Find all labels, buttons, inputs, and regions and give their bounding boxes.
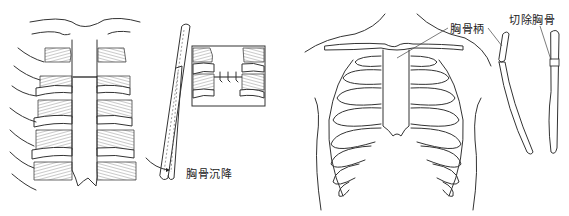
- left-ribs: [329, 56, 381, 196]
- right-ribs: [411, 56, 463, 196]
- left-torso-line: [315, 98, 321, 210]
- clavicles: [325, 43, 463, 50]
- left-rib-stack: [10, 48, 72, 190]
- label-resected-sternum: 切除胸骨: [509, 11, 555, 27]
- ribcage-illustration: [285, 0, 569, 216]
- label-sternal-depression: 胸骨沉降: [186, 165, 232, 181]
- left-shoulder-line: [305, 14, 385, 52]
- right-figure-panel: 胸骨柄 切除胸骨: [285, 0, 569, 216]
- suture-inset: [192, 46, 265, 106]
- sternum: [383, 50, 409, 136]
- label-manubrium: 胸骨柄: [450, 20, 485, 36]
- sternum-lateral-bent: [488, 28, 533, 154]
- split-sternum-illustration: [0, 0, 285, 216]
- left-figure-panel: 胸骨沉降: [0, 0, 285, 216]
- right-rib-stack: [97, 48, 136, 180]
- right-torso-line: [473, 98, 481, 210]
- sternum-lateral-resected: [540, 26, 559, 153]
- sternum-outline: [72, 40, 97, 186]
- sternum-lateral-view: [146, 24, 190, 180]
